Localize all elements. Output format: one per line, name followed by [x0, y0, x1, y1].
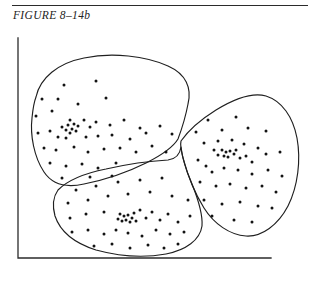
- data-point: [83, 119, 86, 122]
- data-point: [145, 217, 148, 220]
- data-point: [117, 218, 120, 221]
- data-point: [49, 130, 52, 133]
- data-point: [127, 214, 130, 217]
- data-point: [257, 147, 260, 150]
- data-point: [65, 165, 68, 168]
- data-point: [139, 209, 142, 212]
- data-point: [257, 205, 260, 208]
- data-point: [81, 163, 84, 166]
- data-point: [169, 233, 172, 236]
- data-point: [43, 147, 46, 150]
- data-point: [95, 80, 98, 83]
- data-point: [243, 143, 246, 146]
- data-point: [117, 181, 120, 184]
- data-point: [65, 129, 68, 132]
- cluster-boundary-bottom-cluster: [53, 147, 202, 256]
- data-point: [119, 213, 122, 216]
- data-point: [127, 193, 130, 196]
- data-point: [171, 133, 174, 136]
- data-point: [103, 211, 106, 214]
- data-point: [217, 140, 220, 143]
- data-point: [61, 177, 64, 180]
- data-point: [187, 199, 190, 202]
- data-point: [213, 149, 216, 152]
- data-point: [223, 155, 226, 158]
- data-point: [125, 219, 128, 222]
- data-point: [131, 217, 134, 220]
- data-point: [267, 169, 270, 172]
- data-point: [231, 139, 234, 142]
- data-point: [177, 221, 180, 224]
- data-points: [35, 80, 284, 250]
- data-point: [195, 131, 198, 134]
- scatter-plot: [0, 0, 316, 284]
- data-point: [115, 229, 118, 232]
- data-point: [133, 212, 136, 215]
- data-point: [227, 156, 230, 159]
- data-point: [221, 129, 224, 132]
- data-point: [211, 215, 214, 218]
- data-point: [69, 119, 72, 122]
- data-point: [109, 124, 112, 127]
- data-point: [123, 215, 126, 218]
- data-point: [129, 138, 132, 141]
- data-point: [75, 130, 78, 133]
- data-point: [229, 150, 232, 153]
- data-point: [207, 119, 210, 122]
- data-point: [247, 127, 250, 130]
- data-point: [51, 110, 54, 113]
- data-point: [111, 243, 114, 246]
- figure-page: FIGURE 8–14b: [0, 0, 316, 284]
- data-point: [271, 207, 274, 210]
- data-point: [85, 136, 88, 139]
- axis-group: [18, 38, 271, 258]
- data-point: [111, 175, 114, 178]
- data-point: [233, 153, 236, 156]
- data-point: [85, 213, 88, 216]
- data-point: [63, 84, 66, 87]
- data-point: [149, 191, 152, 194]
- data-point: [251, 173, 254, 176]
- cluster-boundary-upper-left-cluster: [32, 55, 190, 185]
- data-point: [67, 202, 70, 205]
- data-point: [97, 135, 100, 138]
- data-point: [87, 151, 90, 154]
- data-point: [75, 189, 78, 192]
- data-point: [89, 126, 92, 129]
- data-point: [183, 231, 186, 234]
- data-point: [265, 130, 268, 133]
- data-point: [135, 151, 138, 154]
- data-point: [93, 245, 96, 248]
- data-point: [119, 147, 122, 150]
- data-point: [115, 162, 118, 165]
- data-point: [197, 159, 200, 162]
- data-point: [135, 220, 138, 223]
- data-point: [177, 243, 180, 246]
- data-point: [167, 213, 170, 216]
- data-point: [69, 217, 72, 220]
- data-point: [129, 247, 132, 250]
- data-point: [123, 119, 126, 122]
- data-point: [111, 134, 114, 137]
- data-point: [251, 161, 254, 164]
- data-point: [77, 103, 80, 106]
- data-point: [129, 221, 132, 224]
- data-point: [139, 179, 142, 182]
- cluster-boundary-right-cluster: [181, 95, 299, 236]
- data-point: [57, 136, 60, 139]
- data-point: [67, 124, 70, 127]
- data-point: [61, 126, 64, 129]
- data-point: [55, 149, 58, 152]
- data-point: [163, 247, 166, 250]
- data-point: [159, 219, 162, 222]
- data-point: [203, 199, 206, 202]
- data-point: [235, 149, 238, 152]
- data-point: [41, 98, 44, 101]
- data-point: [71, 231, 74, 234]
- data-point: [211, 171, 214, 174]
- data-point: [89, 176, 92, 179]
- data-point: [139, 127, 142, 130]
- axis-frame: [18, 38, 271, 258]
- data-point: [233, 219, 236, 222]
- data-point: [103, 233, 106, 236]
